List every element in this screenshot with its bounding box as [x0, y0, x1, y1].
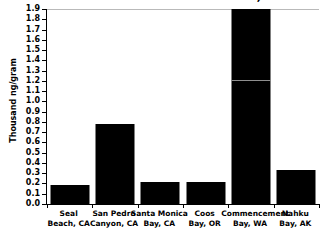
x-axis-category-label: NahkuBay, AK [267, 209, 324, 229]
x-axis-tick-mark [138, 204, 139, 208]
y-axis-tick-label: 0.4 [26, 159, 40, 167]
y-axis-tick-label: 1.7 [26, 26, 40, 34]
x-axis-tick-mark [92, 204, 93, 208]
x-axis-tick-mark [319, 204, 320, 208]
bar-slot [183, 9, 228, 204]
bar-slot [138, 9, 183, 204]
bar [231, 9, 270, 204]
chart-title: for Selected Pacific Coast Estuaries, 19… [0, 0, 326, 2]
y-axis-tick-label: 0.8 [26, 118, 40, 126]
y-axis-tick-label: 0.7 [26, 128, 40, 136]
x-axis-category-label-line: Bay, AK [267, 219, 324, 229]
y-axis-tick-label: 0.3 [26, 169, 40, 177]
y-axis-title-wrap: Thousand ng/gram [0, 0, 16, 205]
y-axis-tick-label: 0.2 [26, 179, 40, 187]
bar [186, 182, 225, 204]
bar-series [47, 9, 319, 204]
y-axis-tick-label: 1.1 [26, 87, 40, 95]
x-axis-tick-mark [47, 204, 48, 208]
y-axis-tick-label: 1.0 [26, 97, 40, 105]
bar [277, 170, 316, 204]
y-axis-title: Thousand ng/gram [9, 36, 18, 166]
y-axis-tick-label: 0.0 [26, 200, 40, 208]
y-axis-tick-label: 0.1 [26, 190, 40, 198]
y-axis-tick-label: 1.4 [26, 56, 40, 64]
bar-crossline [231, 80, 270, 81]
x-axis-tick-mark [274, 204, 275, 208]
y-axis-tick-label: 0.9 [26, 108, 40, 116]
x-axis-tick-mark [228, 204, 229, 208]
y-axis-tick-label: 1.6 [26, 36, 40, 44]
bar [95, 124, 134, 204]
bar [50, 185, 89, 205]
plot-area: 0.00.10.20.30.40.50.60.70.80.91.01.11.21… [46, 9, 319, 205]
y-axis-tick-label: 0.6 [26, 138, 40, 146]
x-axis-labels: SealBeach, CASan PedroCanyon, CASanta Mo… [46, 209, 318, 231]
y-axis-tick-label: 1.2 [26, 77, 40, 85]
y-axis-tick-label: 1.9 [26, 5, 40, 13]
bar-slot [92, 9, 137, 204]
y-axis-tick-label: 0.5 [26, 149, 40, 157]
x-axis-tick-mark [183, 204, 184, 208]
x-axis-category-label-line: Nahku [267, 209, 324, 219]
bar-slot [47, 9, 92, 204]
bar-slot [274, 9, 319, 204]
bar-slot [228, 9, 273, 204]
y-axis-tick-label: 1.3 [26, 67, 40, 75]
bar [141, 182, 180, 204]
bar-chart: for Selected Pacific Coast Estuaries, 19… [0, 0, 326, 231]
y-axis-tick-label: 1.8 [26, 15, 40, 23]
y-axis-tick-label: 1.5 [26, 46, 40, 54]
